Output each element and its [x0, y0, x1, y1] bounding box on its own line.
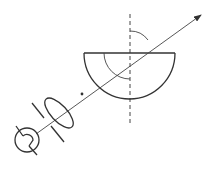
- ray-direction-dot: [81, 93, 84, 96]
- convex-lens: [39, 93, 78, 132]
- angle-of-incidence-arc: [104, 53, 130, 79]
- angle-of-refraction-arc: [130, 31, 148, 40]
- slit: [32, 103, 64, 142]
- lamp: [15, 126, 39, 155]
- refraction-diagram: [0, 0, 215, 169]
- light-ray: [36, 15, 201, 134]
